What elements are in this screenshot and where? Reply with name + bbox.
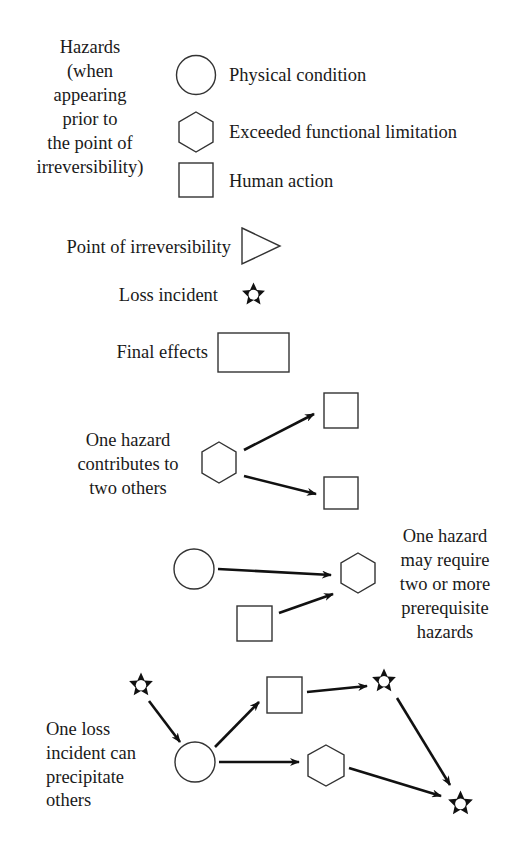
arrow-connector: [149, 701, 180, 742]
circle-node: [175, 742, 215, 782]
legend-label: Point of irreversibility: [67, 237, 232, 257]
hazards-label-line: prior to: [63, 109, 118, 129]
arrow-connector: [307, 686, 367, 692]
star-node: [448, 791, 473, 815]
hexagon-node: [341, 553, 375, 593]
legend-item-human-action: Human action: [179, 163, 333, 197]
hazards-label-line: appearing: [54, 85, 127, 105]
hazards-label-line: the point of: [47, 133, 133, 153]
legend-label: Human action: [229, 171, 333, 191]
hexagon-node: [308, 745, 344, 786]
caption-line: may require: [401, 550, 490, 570]
legend-label: Final effects: [116, 342, 208, 362]
caption-line: One hazard: [403, 526, 488, 546]
hexagon-icon: [179, 112, 213, 152]
legend-item-physical-condition: Physical condition: [177, 56, 367, 95]
caption-line: two others: [89, 478, 167, 498]
legend-item-final-effects: Final effects: [116, 333, 289, 372]
star-icon: [242, 282, 265, 304]
square-node: [324, 477, 358, 509]
hazards-label-line: Hazards: [60, 37, 121, 57]
square-node: [237, 606, 272, 641]
legend-label: Exceeded functional limitation: [229, 122, 457, 142]
legend-label: Physical condition: [229, 65, 366, 85]
rectangle-icon: [218, 333, 289, 372]
example-precipitate: One loss incident can precipitate others: [46, 669, 473, 815]
caption-line: incident can: [46, 743, 136, 763]
circle-node: [174, 549, 214, 589]
caption-line: hazards: [417, 622, 474, 642]
square-icon: [179, 163, 213, 197]
arrow-connector: [244, 476, 316, 494]
hexagon-node: [202, 442, 236, 483]
arrow-connector: [244, 414, 314, 450]
example-prerequisites: One hazard may require two or more prere…: [174, 526, 490, 642]
legend-label: Loss incident: [119, 285, 219, 305]
star-node: [372, 669, 396, 692]
legend-item-point-of-irreversibility: Point of irreversibility: [67, 228, 280, 264]
caption-line: precipitate: [46, 767, 124, 787]
star-node: [129, 673, 153, 696]
circle-icon: [177, 56, 216, 95]
arrow-connector: [397, 698, 450, 785]
caption-line: One loss: [46, 719, 110, 739]
square-node: [324, 393, 358, 428]
square-node: [267, 677, 302, 713]
caption-line: others: [46, 790, 91, 810]
caption-line: prerequisite: [401, 598, 488, 618]
arrow-connector: [218, 569, 331, 575]
example-contributes: One hazard contributes to two others: [77, 393, 358, 509]
caption-line: One hazard: [86, 430, 171, 450]
hazards-legend-label: Hazards (when appearing prior to the poi…: [37, 37, 144, 178]
triangle-icon: [242, 228, 280, 264]
legend-item-loss-incident: Loss incident: [119, 282, 265, 305]
hazards-label-line: (when: [67, 61, 113, 82]
caption-line: two or more: [400, 574, 490, 594]
legend-item-exceeded-functional-limitation: Exceeded functional limitation: [179, 112, 457, 152]
hazards-label-line: irreversibility): [37, 157, 144, 178]
hazard-symbol-diagram: Hazards (when appearing prior to the poi…: [0, 0, 525, 860]
arrow-connector: [215, 702, 259, 747]
caption-line: contributes to: [77, 454, 178, 474]
arrow-connector: [279, 594, 333, 613]
arrow-connector: [349, 768, 441, 796]
